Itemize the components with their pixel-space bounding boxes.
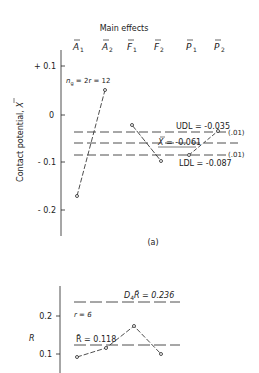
r6-annotation: r = 6 [74, 311, 92, 319]
ng-annotation: ng = 2r = 12 [66, 77, 111, 87]
y-axis-label-top: Contact potential, X [14, 98, 25, 182]
control-chart-figure: Main effects A1 A2 F1 F2 P1 P2 + 0.1 0 -… [0, 0, 259, 373]
svg-text:P: P [214, 42, 220, 52]
svg-text:P: P [186, 42, 192, 52]
udl-significance: (.01) [228, 129, 245, 137]
reference-lines-top [74, 132, 238, 155]
svg-text:1: 1 [193, 46, 197, 53]
category-f2: F2 [154, 40, 164, 53]
y-axis-top: + 0.1 0 - 0.1 - 0.2 [34, 50, 65, 236]
d4r-label: D4R̄ = 0.236 [124, 290, 174, 301]
point-a2 [104, 89, 107, 92]
udl-label: UDL = -0.035 [176, 122, 230, 131]
ytick-0: 0 [49, 111, 54, 120]
category-a2: A2 [101, 40, 113, 53]
svg-text:2: 2 [160, 46, 164, 53]
ytick-minus-0.1: - 0.1 [38, 158, 56, 167]
svg-text:A: A [72, 42, 79, 52]
category-f1: F1 [127, 40, 137, 53]
mean-label: X = -0.061 [157, 137, 201, 147]
panel-label: (a) [147, 238, 158, 247]
ytick-plus-0.1: + 0.1 [34, 62, 56, 71]
chart-title: Main effects [100, 24, 149, 33]
svg-text:X = -0.061: X = -0.061 [157, 138, 201, 147]
category-labels: A1 A2 F1 F2 P1 P2 [72, 40, 225, 53]
svg-text:2: 2 [109, 46, 113, 53]
rtick-0.1: 0.1 [39, 350, 52, 359]
y-axis-bottom: 0.2 0.1 R [29, 286, 60, 373]
point-f2 [160, 160, 163, 163]
rbar-label: R̄ = 0.118 [76, 334, 116, 344]
svg-text:1: 1 [133, 46, 137, 53]
svg-text:1: 1 [80, 46, 84, 53]
r-axis-label: R [29, 334, 35, 343]
svg-text:A: A [101, 42, 108, 52]
ldl-label: LDL = -0.087 [179, 159, 232, 168]
svg-text:2: 2 [221, 46, 225, 53]
ytick-minus-0.2: - 0.2 [38, 206, 56, 215]
category-p1: P1 [186, 40, 197, 53]
ldl-significance: (.01) [228, 151, 245, 159]
category-a1: A1 [72, 40, 84, 53]
point-a1 [76, 195, 79, 198]
point-f1 [131, 124, 134, 127]
point-p1 [188, 154, 191, 157]
rtick-0.2: 0.2 [39, 312, 52, 321]
svg-text:Contact potential, X: Contact potential, X [16, 102, 25, 182]
category-p2: P2 [214, 40, 225, 53]
